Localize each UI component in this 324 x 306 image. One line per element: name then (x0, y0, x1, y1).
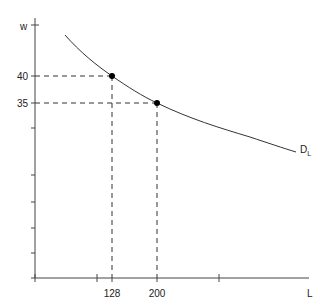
x-axis-label: L (307, 288, 313, 299)
demand-curve (65, 35, 296, 152)
y-tick-label-35: 35 (17, 98, 29, 109)
labor-demand-chart: w L 40 35 128 200 DL (0, 0, 324, 306)
y-axis-label: w (19, 21, 28, 32)
curve-label-main: D (300, 144, 307, 155)
curve-label: DL (300, 144, 311, 157)
curve-label-sub: L (307, 150, 311, 157)
point-200-35 (154, 100, 160, 106)
y-tick-label-40: 40 (17, 71, 29, 82)
point-128-40 (109, 73, 115, 79)
x-tick-label-128: 128 (104, 288, 121, 299)
x-tick-label-200: 200 (149, 288, 166, 299)
guide-lines (35, 76, 157, 278)
